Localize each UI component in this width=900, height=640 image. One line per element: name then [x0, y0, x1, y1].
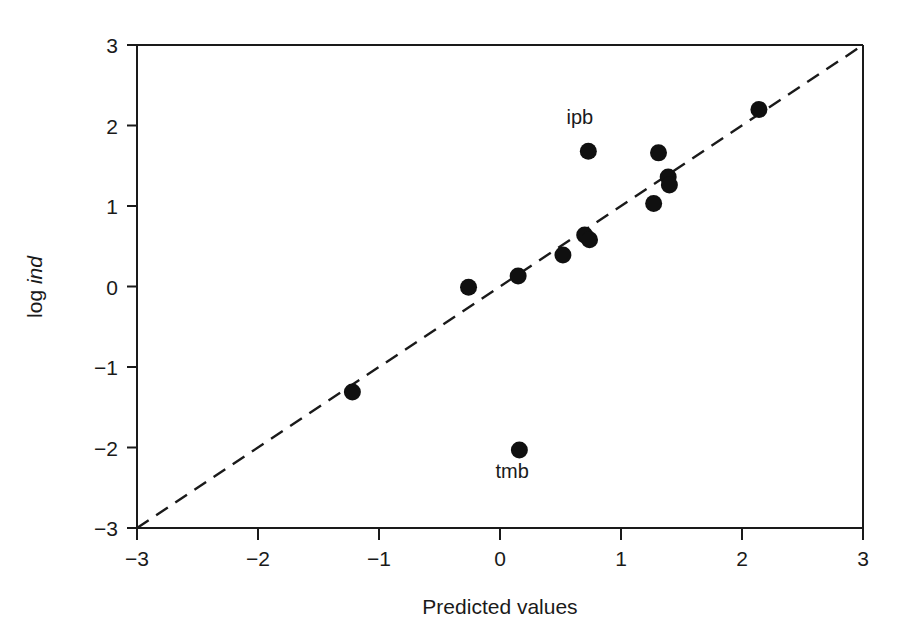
data-point [661, 177, 678, 194]
y-axis-title-prefix: log [23, 284, 46, 318]
identity-reference-line [137, 45, 863, 528]
x-tick-label-2: 2 [736, 547, 748, 570]
x-tick-label-minus-3: −3 [125, 547, 149, 570]
plot-canvas: 3 2 1 0 −1 −2 −3 −3 −2 −1 0 1 2 3 [0, 0, 900, 640]
y-axis-title-text: log ind [23, 255, 46, 318]
data-point [580, 143, 597, 160]
data-point [511, 441, 528, 458]
y-tick-label-minus-3: −3 [94, 517, 118, 540]
point-label-ipb: ipb [567, 106, 594, 128]
data-point [344, 383, 361, 400]
x-axis-title: Predicted values [422, 595, 577, 618]
y-tick-label-3: 3 [106, 34, 118, 57]
x-tick-label-minus-2: −2 [246, 547, 270, 570]
x-tick-marks [137, 528, 863, 540]
data-point [750, 101, 767, 118]
data-points-layer [344, 101, 768, 459]
data-point [554, 247, 571, 264]
y-tick-marks [127, 45, 137, 528]
y-axis-title-italic: ind [23, 255, 46, 284]
data-point [581, 231, 598, 248]
data-point [460, 279, 477, 296]
x-tick-label-3: 3 [857, 547, 869, 570]
y-tick-label-1: 1 [106, 195, 118, 218]
x-tick-labels: −3 −2 −1 0 1 2 3 [125, 547, 869, 570]
data-point [650, 144, 667, 161]
y-tick-label-0: 0 [106, 276, 118, 299]
x-tick-label-minus-1: −1 [367, 547, 391, 570]
x-tick-label-0: 0 [494, 547, 506, 570]
y-tick-label-minus-1: −1 [94, 356, 118, 379]
point-label-tmb: tmb [495, 460, 528, 482]
y-tick-label-2: 2 [106, 115, 118, 138]
point-annotations-layer: ipbtmb [495, 106, 593, 482]
data-point [645, 195, 662, 212]
x-tick-label-1: 1 [615, 547, 627, 570]
scatter-plot-figure: 3 2 1 0 −1 −2 −3 −3 −2 −1 0 1 2 3 [0, 0, 900, 640]
y-tick-labels: 3 2 1 0 −1 −2 −3 [94, 34, 118, 540]
data-point [510, 268, 527, 285]
y-axis-title: log ind [23, 255, 46, 318]
y-tick-label-minus-2: −2 [94, 437, 118, 460]
